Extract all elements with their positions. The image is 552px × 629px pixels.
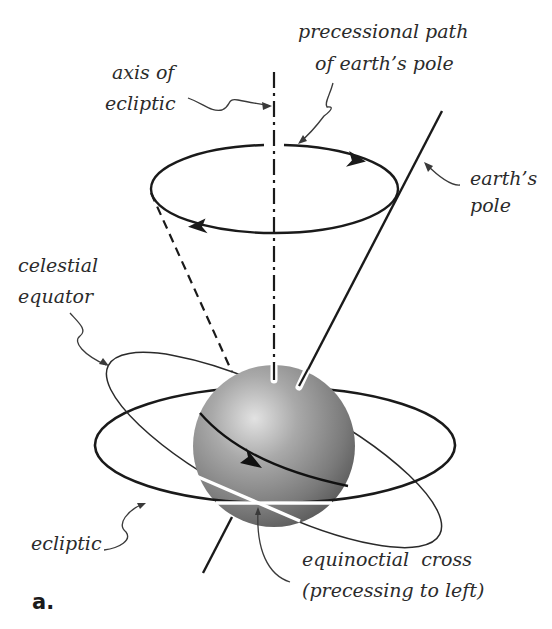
- label-precessional-path-1: precessional path: [298, 20, 468, 42]
- label-precessional-path-2: of earth’s pole: [315, 52, 454, 74]
- earths-pole-line: [301, 111, 442, 383]
- label-celestial-equator-2: equator: [18, 285, 95, 307]
- precession-diagram: axis of ecliptic precessional path of ea…: [0, 0, 552, 629]
- earths-pole-line-bottom: [203, 517, 232, 573]
- label-celestial-equator-1: celestial: [18, 254, 98, 276]
- panel-label: a.: [32, 590, 54, 614]
- label-earths-pole-1: earth’s: [470, 167, 538, 189]
- label-axis-of-ecliptic-2: ecliptic: [105, 92, 176, 114]
- label-equinoctial-cross-1: equinoctial cross: [302, 548, 472, 570]
- label-equinoctial-cross-2: (precessing to left): [302, 579, 484, 601]
- label-ecliptic: ecliptic: [31, 532, 102, 554]
- label-axis-of-ecliptic-1: axis of: [112, 61, 177, 83]
- label-earths-pole-2: pole: [470, 194, 511, 216]
- cone-dashed-line: [151, 193, 232, 372]
